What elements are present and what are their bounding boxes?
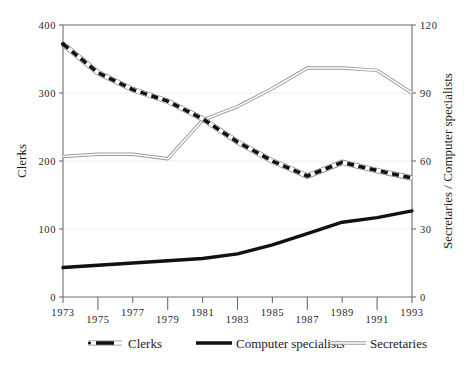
y-axis-left-tick-label: 400 [38,20,56,31]
x-axis-tick-label: 1977 [121,307,144,318]
x-axis-tick-label: 1973 [51,307,74,318]
x-axis-tick-label: 1989 [330,307,353,318]
y-axis-left-ticks: 0100200300400 [38,20,63,303]
x-axis-tick-label: 1985 [261,307,284,318]
x-axis-tick-label: 1979 [156,314,179,325]
series-line-clerks-outline [63,44,412,178]
x-axis-tick-label: 1983 [226,314,249,325]
y-axis-right-tick-label: 30 [420,224,432,235]
x-axis-tick-label: 1993 [400,307,423,318]
x-axis-tick-label: 1991 [365,314,388,325]
series-line-computer-specialists [63,211,412,268]
y-axis-right-tick-label: 0 [420,292,426,303]
chart-figure: 0100200300400 0306090120 197319751977197… [0,0,472,367]
y-axis-right-tick-label: 60 [420,156,432,167]
y-axis-right-tick-label: 90 [420,88,432,99]
y-axis-right-title: Secretaries / Computer specialists [440,73,455,249]
gridlines [63,25,412,229]
series-line-clerks [63,44,412,178]
line-chart: 0100200300400 0306090120 197319751977197… [0,0,472,367]
y-axis-left-tick-label: 0 [50,292,56,303]
y-axis-left-tick-label: 100 [38,224,56,235]
y-axis-right-ticks: 0306090120 [412,20,438,303]
series-marker-clerks-start [61,42,65,46]
series-layer [61,42,412,268]
x-axis-ticks: 1973197519771979198119831985198719891991… [51,297,423,325]
y-axis-left-tick-label: 200 [38,156,56,167]
chart-legend: ClerksComputer specialistsSecretaries [88,336,427,351]
x-axis-tick-label: 1981 [191,307,214,318]
series-line-clerks-fill [63,44,412,178]
x-axis-tick-label: 1987 [296,314,319,325]
legend-item: Clerks [88,336,162,351]
x-axis-tick-label: 1975 [86,314,109,325]
legend-item: Computer specialists [196,336,345,351]
legend-label: Computer specialists [236,336,345,351]
y-axis-right-tick-label: 120 [420,20,438,31]
legend-label: Clerks [128,336,162,351]
y-axis-left-title: Clerks [14,144,29,178]
legend-label: Secretaries [370,336,427,351]
y-axis-left-tick-label: 300 [38,88,56,99]
